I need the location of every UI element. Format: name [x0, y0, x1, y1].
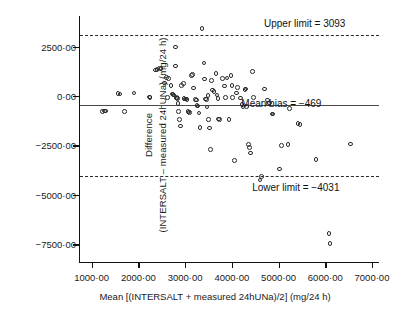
x-tick-label: 3000·00	[168, 272, 203, 283]
lower-limit-label: Lower limit = −4031	[252, 182, 339, 193]
scatter-point	[206, 117, 211, 122]
y-tick-label: −5000·00	[18, 189, 76, 200]
x-tick-mark	[325, 262, 326, 268]
scatter-point	[208, 147, 213, 152]
scatter-point	[190, 72, 195, 77]
y-tick-mark	[73, 195, 79, 196]
scatter-point	[197, 111, 202, 116]
scatter-point	[148, 95, 153, 100]
scatter-point	[173, 45, 178, 50]
scatter-point	[279, 143, 284, 148]
scatter-point	[175, 96, 180, 101]
x-tick-mark	[138, 262, 139, 268]
scatter-point	[348, 142, 353, 147]
scatter-point	[187, 110, 192, 115]
y-tick-mark	[73, 96, 79, 97]
scatter-point	[222, 84, 227, 89]
x-tick-label: 4000·00	[214, 272, 249, 283]
x-tick-label: 6000·00	[308, 272, 343, 283]
scatter-point	[196, 104, 201, 109]
scatter-point	[244, 87, 249, 92]
scatter-point	[198, 125, 203, 130]
scatter-point	[232, 158, 237, 163]
scatter-point	[230, 95, 235, 100]
scatter-point	[229, 73, 234, 78]
scatter-point	[177, 117, 182, 122]
x-tick-mark	[185, 262, 186, 268]
x-tick-label: 5000·00	[261, 272, 296, 283]
x-tick-label: 7000·00	[355, 272, 390, 283]
scatter-point	[223, 95, 228, 100]
plot-area: Upper limit = 3093Mean bias = −469Lower …	[80, 16, 379, 262]
x-tick-label: 2000·00	[121, 272, 156, 283]
scatter-point	[200, 26, 205, 31]
x-axis-line	[79, 262, 379, 263]
y-tick-mark	[73, 47, 79, 48]
y-tick-label: 2500·00	[18, 41, 76, 52]
x-tick-mark	[279, 262, 280, 268]
scatter-point	[235, 85, 240, 90]
scatter-point	[185, 97, 190, 102]
y-tick-label: −2500·00	[18, 140, 76, 151]
mean-bias-line	[80, 105, 379, 106]
scatter-point	[277, 167, 282, 172]
scatter-point	[209, 78, 214, 83]
scatter-point	[159, 66, 164, 71]
scatter-point	[178, 124, 183, 129]
scatter-point	[162, 81, 167, 86]
scatter-point	[230, 83, 235, 88]
scatter-point	[205, 105, 210, 110]
scatter-point	[217, 117, 222, 122]
scatter-point	[248, 151, 253, 156]
scatter-point	[132, 91, 137, 96]
mean-bias-label: Mean bias = −469	[241, 98, 321, 109]
y-tick-label: 0·00	[18, 91, 76, 102]
scatter-point	[118, 92, 123, 97]
scatter-point	[191, 86, 196, 91]
scatter-point	[181, 81, 186, 86]
scatter-point	[271, 112, 276, 117]
x-tick-mark	[232, 262, 233, 268]
scatter-point	[173, 64, 178, 69]
x-tick-mark	[372, 262, 373, 268]
scatter-point	[103, 109, 108, 114]
scatter-point	[314, 157, 319, 162]
bland-altman-chart: Difference (INTERSALT – measured 24hUNa)…	[0, 0, 403, 315]
scatter-point	[286, 142, 291, 147]
x-tick-label: 1000·00	[74, 272, 109, 283]
scatter-point	[250, 69, 255, 74]
scatter-point	[247, 145, 252, 150]
scatter-point	[165, 95, 170, 100]
scatter-point	[227, 117, 232, 122]
scatter-point	[262, 87, 267, 92]
scatter-point	[202, 77, 207, 82]
scatter-point	[327, 231, 332, 236]
scatter-point	[298, 122, 303, 127]
scatter-point	[234, 91, 239, 96]
scatter-point	[176, 109, 181, 114]
x-axis-title: Mean [(INTERSALT + measured 24hUNa)/2] (…	[40, 291, 390, 302]
y-tick-mark	[73, 145, 79, 146]
scatter-point	[259, 174, 264, 179]
lower-limit-line	[80, 176, 379, 177]
scatter-point	[194, 98, 199, 103]
scatter-point	[204, 97, 209, 102]
scatter-point	[214, 71, 219, 76]
upper-limit-label: Upper limit = 3093	[264, 17, 345, 28]
scatter-point	[202, 61, 207, 66]
y-tick-mark	[73, 244, 79, 245]
scatter-point	[216, 96, 221, 101]
scatter-point	[328, 241, 333, 246]
scatter-point	[207, 126, 212, 131]
upper-limit-line	[80, 35, 379, 36]
scatter-point	[206, 93, 211, 98]
y-tick-label: −7500·00	[18, 239, 76, 250]
y-axis-tick-labels: 2500·000·00−2500·00−5000·00−7500·00	[14, 0, 76, 315]
x-tick-mark	[92, 262, 93, 268]
scatter-point	[169, 83, 174, 88]
scatter-point	[166, 76, 171, 81]
scatter-point	[122, 109, 127, 114]
